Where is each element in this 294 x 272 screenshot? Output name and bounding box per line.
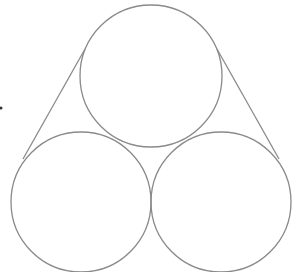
- left-tangent-line: [23, 49, 85, 159]
- right-tangent-line: [217, 49, 279, 159]
- bottom-right-circle: [151, 132, 291, 272]
- point-marker: [0, 107, 3, 110]
- bottom-left-circle: [11, 132, 151, 272]
- top-circle: [80, 5, 222, 147]
- diagram-canvas: [0, 0, 294, 272]
